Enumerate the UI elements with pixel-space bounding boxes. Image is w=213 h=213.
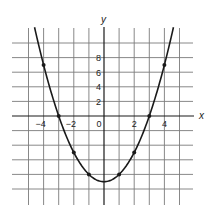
data-point [72,151,76,155]
data-point [117,172,121,176]
x-tick-label: −2 [66,119,76,129]
x-tick-label: 2 [132,119,137,129]
y-tick-label: 6 [96,68,101,78]
tick-labels: −4−20242468 [35,53,166,129]
data-point [87,172,91,176]
x-tick-label: −4 [35,119,45,129]
data-point [132,151,136,155]
data-point [162,63,166,67]
y-axis-label: y [100,14,107,25]
parabola-chart: −4−20242468 x y [0,0,213,213]
x-tick-label: 0 [96,119,101,129]
y-tick-label: 8 [96,53,101,63]
x-tick-label: 4 [162,119,167,129]
data-point [57,114,61,118]
y-tick-label: 2 [96,97,101,107]
y-tick-label: 4 [96,82,101,92]
x-axis-label: x [198,110,205,121]
data-point [147,114,151,118]
data-point [42,63,46,67]
